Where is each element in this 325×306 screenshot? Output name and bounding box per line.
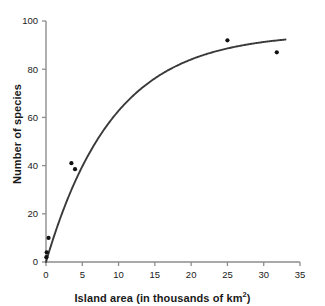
x-axis-label: Island area (in thousands of km2)	[0, 290, 325, 304]
data-point	[44, 255, 48, 259]
y-tick-label: 100	[22, 15, 38, 26]
x-tick-label: 0	[43, 269, 48, 280]
y-tick-label: 40	[27, 160, 38, 171]
x-tick-label: 10	[113, 269, 124, 280]
data-point	[225, 38, 229, 42]
x-tick-label: 25	[222, 269, 233, 280]
y-tick-label: 20	[27, 208, 38, 219]
x-tick-label: 35	[295, 269, 306, 280]
data-point	[69, 161, 73, 165]
x-axis-label-tail: )	[247, 292, 251, 304]
plot-area: 020406080100 05101520253035	[0, 0, 325, 306]
y-axis-label: Number of species	[11, 59, 23, 209]
x-tick-label: 15	[150, 269, 161, 280]
data-points	[44, 38, 279, 259]
x-tick-label: 30	[258, 269, 269, 280]
x-axis-label-base: Island area (in thousands of km	[74, 292, 242, 304]
y-tick-label: 80	[27, 64, 38, 75]
y-tick-label: 60	[27, 112, 38, 123]
species-area-chart: 020406080100 05101520253035 Island area …	[0, 0, 325, 306]
y-tick-label: 0	[33, 256, 38, 267]
data-point	[275, 50, 279, 54]
data-point	[73, 167, 77, 171]
x-tick-label: 5	[80, 269, 85, 280]
x-axis-ticks: 05101520253035	[43, 262, 305, 280]
fit-curve	[46, 40, 285, 262]
data-point	[46, 236, 50, 240]
y-axis-ticks: 020406080100	[22, 15, 46, 267]
data-point	[45, 250, 49, 254]
x-tick-label: 20	[186, 269, 197, 280]
axes	[46, 21, 300, 262]
